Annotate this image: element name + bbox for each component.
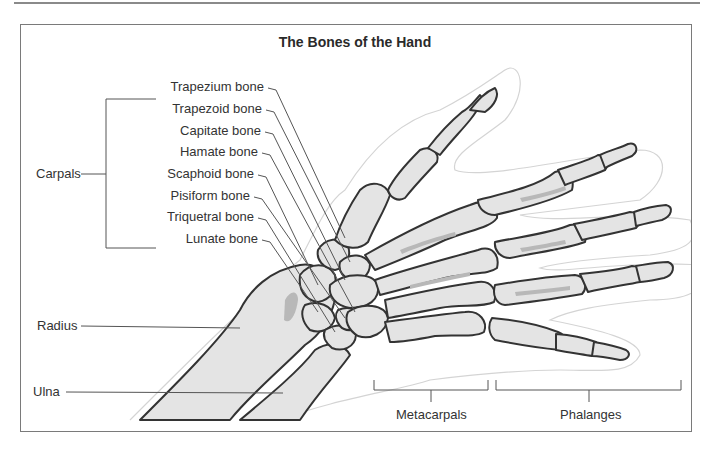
label-radius: Radius [37,318,77,333]
hamate-bone [346,306,388,337]
middle-distal-phalanx [634,205,671,226]
little-proximal-phalanx [489,318,565,350]
label-pisiform-bone: Pisiform bone [171,188,250,203]
metacarpals-bracket [374,380,488,402]
ring-distal-phalanx [636,262,673,282]
label-triquetral-bone: Triquetral bone [167,209,254,224]
index-proximal-phalanx [478,171,573,215]
thumb-tip [470,88,497,112]
thumb-distal-phalanx [428,95,482,155]
metacarpal-thumb [335,184,390,248]
radius-leader-line [81,326,240,328]
label-trapezium-bone: Trapezium bone [171,79,264,94]
label-hamate-bone: Hamate bone [180,144,258,159]
label-capitate-bone: Capitate bone [180,123,261,138]
label-phalanges: Phalanges [560,407,621,422]
hand-skeleton-illustration [0,0,710,450]
ring-middle-phalanx [580,266,643,292]
carpals-bracket [81,99,156,248]
middle-middle-phalanx [574,212,639,240]
capitate-bone [330,275,379,308]
label-carpals: Carpals [36,166,81,181]
label-scaphoid-bone: Scaphoid bone [167,166,254,181]
label-lunate-bone: Lunate bone [186,231,258,246]
label-ulna: Ulna [33,384,60,399]
index-distal-phalanx [600,144,636,168]
little-distal-phalanx [592,342,629,360]
middle-proximal-phalanx [495,224,586,258]
index-middle-phalanx [558,155,607,185]
thumb-proximal-phalanx [388,148,438,199]
label-trapezoid-bone: Trapezoid bone [172,101,262,116]
phalanges-bracket [496,380,681,402]
label-metacarpals: Metacarpals [396,407,467,422]
